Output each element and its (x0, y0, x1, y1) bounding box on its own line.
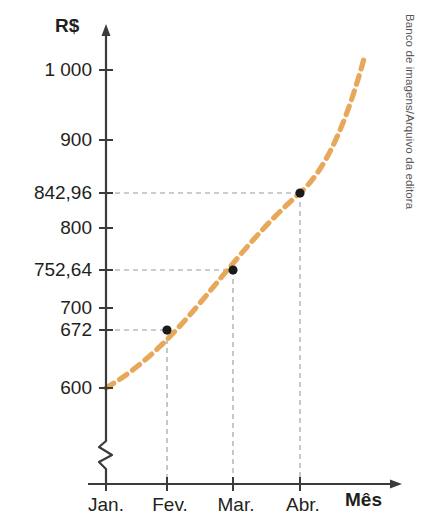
x-tick-label-abr: Abr. (286, 494, 320, 516)
axis-break-zigzag (99, 441, 112, 469)
data-point-fev (162, 325, 171, 334)
y-tick-label-752-64: 752,64 (0, 259, 92, 281)
x-tick-label-mar: Mar. (218, 494, 255, 516)
x-tick-label-fev: Fev. (152, 494, 188, 516)
x-axis-title: Mês (345, 489, 382, 511)
data-point-abr (295, 188, 304, 197)
y-tick-label-900: 900 (0, 129, 92, 151)
y-tick-label-842-96: 842,96 (0, 182, 92, 204)
y-tick-label-672: 672 (0, 319, 92, 341)
y-tick-label-600: 600 (0, 377, 92, 399)
x-axis-arrow (390, 480, 402, 489)
data-point-mar (228, 265, 237, 274)
y-axis-title: R$ (55, 15, 79, 37)
image-credit-text: Banco de imagens/Arquivo da editora (404, 14, 416, 209)
x-tick-label-jan: Jan. (88, 494, 124, 516)
guide-lines-vertical (167, 193, 300, 484)
y-axis-arrow (102, 24, 111, 36)
chart-figure: R$ Mês 1 000 900 842,96 800 752,64 700 6… (0, 0, 435, 526)
guide-lines-horizontal (106, 193, 300, 330)
data-curve-montante (106, 55, 365, 388)
y-tick-label-1000: 1 000 (0, 59, 92, 81)
y-tick-label-800: 800 (0, 217, 92, 239)
y-tick-label-700: 700 (0, 297, 92, 319)
